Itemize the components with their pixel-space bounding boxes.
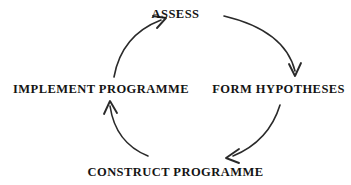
cycle-diagram: ASSESS FORM HYPOTHESES CONSTRUCT PROGRAM… <box>0 0 351 185</box>
cycle-node-assess: ASSESS <box>0 8 351 21</box>
arrow-assess-to-hypotheses <box>224 16 301 76</box>
cycle-node-implement-programme: IMPLEMENT PROGRAMME <box>13 83 189 96</box>
cycle-node-form-hypotheses: FORM HYPOTHESES <box>212 83 345 96</box>
arrow-hypotheses-to-construct <box>226 105 280 163</box>
cycle-node-construct-programme: CONSTRUCT PROGRAMME <box>0 166 351 179</box>
arrow-construct-to-implement <box>104 101 148 156</box>
arrow-implement-to-assess <box>114 16 166 77</box>
